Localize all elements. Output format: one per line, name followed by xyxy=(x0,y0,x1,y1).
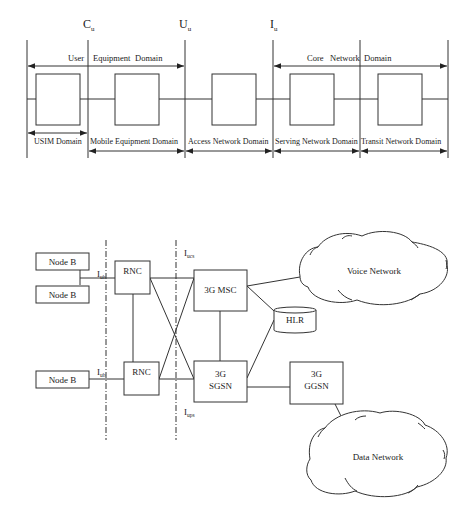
rnc-1-label: RNC xyxy=(123,266,142,276)
msc-voice-link xyxy=(247,277,300,286)
usim-box xyxy=(36,74,80,125)
3g-ggsn-label: GGSN xyxy=(304,381,329,391)
iups-label: Iups xyxy=(184,407,195,418)
mobile-equipment-domain-label: Mobile Equipment Domain xyxy=(90,137,178,146)
core-network-domain-label: Core xyxy=(307,53,324,63)
serving-network-domain-label: Serving Network Domain xyxy=(275,137,358,146)
network-architecture-diagram: Node B Node B Node B RNC RNC 3G MSC 3G S… xyxy=(36,231,448,496)
rnc-2-label: RNC xyxy=(132,367,151,377)
node-b-1-label: Node B xyxy=(49,257,77,267)
3g-ggsn-label: 3G xyxy=(311,369,323,379)
voice-network-label: Voice Network xyxy=(347,266,402,276)
serving-network-box xyxy=(290,74,334,125)
user-equipment-domain-label: Equipment xyxy=(93,53,131,63)
mobile-equipment-box xyxy=(115,74,159,125)
sgsn-hlr-link xyxy=(247,320,274,378)
iucs-label: Iucs xyxy=(184,248,194,259)
cu-reference-label: Cu xyxy=(83,17,95,33)
transit-network-domain-label: Transit Network Domain xyxy=(361,137,441,146)
transit-network-box xyxy=(378,74,422,125)
iub-label-1: Iub xyxy=(97,269,106,280)
3g-msc-label: 3G MSC xyxy=(204,285,236,295)
umts-architecture-diagram: Cu Uu Iu User Equipment Domain Core Netw… xyxy=(0,0,474,516)
iu-reference-label: Iu xyxy=(270,17,278,33)
uu-reference-label: Uu xyxy=(179,17,192,33)
core-network-domain-label: Network xyxy=(330,53,360,63)
3g-sgsn-label: 3G xyxy=(215,369,227,379)
core-network-domain-label: Domain xyxy=(364,53,392,63)
user-equipment-domain-label: User xyxy=(68,53,84,63)
iub-label-2: Iub xyxy=(97,367,106,378)
node-b-2-label: Node B xyxy=(49,290,77,300)
usim-domain-label: USIM Domain xyxy=(34,137,82,146)
user-equipment-domain-label: Domain xyxy=(135,53,163,63)
msc-hlr-link xyxy=(247,286,274,311)
hlr-label: HLR xyxy=(286,315,304,325)
data-network-label: Data Network xyxy=(353,452,404,462)
domain-diagram: Cu Uu Iu User Equipment Domain Core Netw… xyxy=(27,17,448,158)
access-network-box xyxy=(212,74,256,125)
node-b-3-label: Node B xyxy=(49,375,77,385)
access-network-domain-label: Access Network Domain xyxy=(188,137,268,146)
3g-sgsn-label: SGSN xyxy=(209,381,233,391)
